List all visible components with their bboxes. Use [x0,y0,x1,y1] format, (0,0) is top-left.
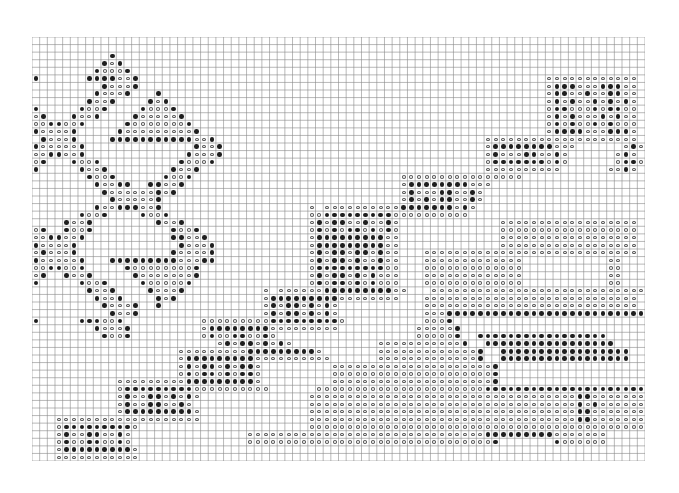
filled-stitch [124,423,132,431]
filled-stitch [109,52,117,60]
open-stitch [231,317,239,325]
open-circle-icon [417,395,421,398]
open-stitch [116,75,124,83]
open-circle-icon [363,418,367,421]
filled-stitch [553,120,561,128]
filled-stitch [622,151,630,159]
open-circle-icon [110,206,114,209]
open-stitch [155,378,163,386]
filled-stitch [461,310,469,318]
open-stitch [484,279,492,287]
open-circle-icon [271,440,275,443]
open-stitch [469,431,477,439]
open-stitch [484,393,492,401]
open-stitch [469,279,477,287]
open-stitch [507,400,515,408]
open-stitch [116,188,124,196]
filled-stitch [47,120,55,128]
open-circle-icon [141,274,145,277]
open-stitch [561,75,569,83]
open-circle-icon [279,312,283,315]
open-stitch [415,188,423,196]
filled-dot-icon [340,273,345,278]
open-stitch [384,272,392,280]
open-stitch [630,241,638,249]
filled-dot-icon [547,432,552,437]
filled-stitch [339,241,347,249]
open-stitch [124,453,132,461]
open-stitch [484,135,492,143]
open-circle-icon [363,228,367,231]
open-circle-icon [509,259,513,262]
filled-stitch [614,113,622,121]
open-stitch [231,370,239,378]
filled-dot-icon [49,122,54,127]
open-circle-icon [379,380,383,383]
open-circle-icon [448,387,452,390]
open-stitch [354,378,362,386]
open-stitch [568,431,576,439]
open-circle-icon [440,350,444,353]
open-circle-icon [517,175,521,178]
open-circle-icon [394,440,398,443]
open-circle-icon [80,418,84,421]
open-circle-icon [103,289,107,292]
filled-dot-icon [179,288,184,293]
filled-stitch [178,408,186,416]
open-circle-icon [448,380,452,383]
open-circle-icon [118,191,122,194]
open-stitch [361,385,369,393]
open-circle-icon [156,107,160,110]
open-circle-icon [95,107,99,110]
open-stitch [178,264,186,272]
open-circle-icon [448,365,452,368]
open-stitch [484,249,492,257]
open-stitch [308,438,316,446]
filled-stitch [538,385,546,393]
open-circle-icon [402,357,406,360]
open-circle-icon [517,138,521,141]
open-stitch [614,416,622,424]
open-circle-icon [517,266,521,269]
open-stitch [538,393,546,401]
open-circle-icon [578,289,582,292]
filled-stitch [369,211,377,219]
open-circle-icon [325,425,329,428]
open-stitch [461,188,469,196]
open-stitch [308,204,316,212]
open-stitch [63,257,71,265]
filled-stitch [361,211,369,219]
filled-dot-icon [102,107,107,112]
open-circle-icon [287,327,291,330]
open-stitch [446,431,454,439]
filled-stitch [331,287,339,295]
open-circle-icon [593,425,597,428]
open-stitch [423,340,431,348]
open-circle-icon [632,403,636,406]
open-stitch [231,340,239,348]
open-stitch [476,272,484,280]
filled-stitch [522,310,530,318]
filled-stitch [331,279,339,287]
open-circle-icon [202,327,206,330]
filled-stitch [155,393,163,401]
open-stitch [369,363,377,371]
filled-stitch [607,98,615,106]
filled-stitch [300,347,308,355]
open-stitch [392,385,400,393]
filled-stitch [86,219,94,227]
open-circle-icon [333,395,337,398]
filled-dot-icon [355,273,360,278]
open-stitch [247,438,255,446]
open-circle-icon [616,418,620,421]
open-stitch [331,370,339,378]
open-circle-icon [49,145,53,148]
open-circle-icon [601,236,605,239]
open-circle-icon [256,365,260,368]
open-stitch [132,416,140,424]
filled-stitch [308,347,316,355]
open-circle-icon [486,259,490,262]
open-circle-icon [624,251,628,254]
open-stitch [591,431,599,439]
open-circle-icon [195,395,199,398]
